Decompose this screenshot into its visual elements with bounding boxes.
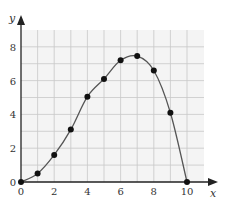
x-axis-label: x [210, 187, 217, 200]
data-point [84, 94, 90, 100]
line-chart: 024681002468 x y [0, 0, 227, 201]
data-point [118, 57, 124, 63]
plot-background [21, 30, 204, 182]
x-tick-label: 0 [18, 186, 24, 197]
data-point [68, 127, 74, 133]
y-axis-label: y [8, 12, 16, 25]
data-point [101, 76, 107, 82]
y-tick-label: 6 [10, 76, 16, 87]
data-point [18, 179, 24, 185]
x-tick-label: 4 [84, 186, 90, 197]
x-tick-label: 8 [151, 186, 157, 197]
x-tick-label: 6 [117, 186, 123, 197]
data-point [167, 110, 173, 116]
y-tick-label: 2 [10, 143, 16, 154]
x-tick-label: 10 [181, 186, 194, 197]
y-tick-label: 8 [10, 42, 16, 53]
y-tick-label: 0 [10, 177, 16, 188]
x-axis-arrow-icon [208, 178, 218, 186]
y-tick-label: 4 [10, 109, 16, 120]
data-point [151, 67, 157, 73]
data-point [184, 179, 190, 185]
data-point [35, 171, 41, 177]
data-point [134, 53, 140, 59]
data-point [51, 152, 57, 158]
x-tick-label: 2 [51, 186, 57, 197]
y-axis-arrow-icon [17, 15, 25, 25]
